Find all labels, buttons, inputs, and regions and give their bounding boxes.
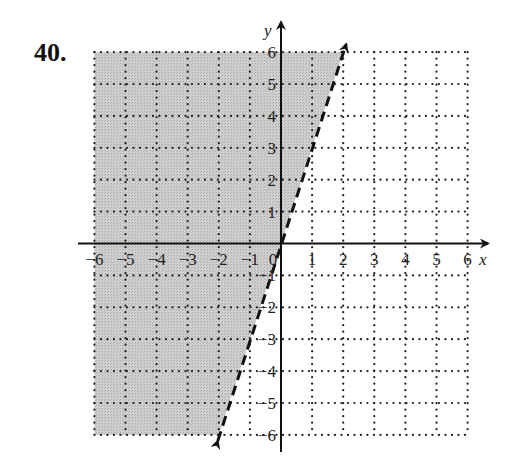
y-tick-label: −6 bbox=[258, 426, 276, 445]
y-tick-label: 3 bbox=[268, 139, 277, 158]
x-tick-label: −2 bbox=[210, 250, 228, 269]
y-tick-label: −5 bbox=[258, 394, 276, 413]
x-tick-label: −3 bbox=[179, 250, 197, 269]
x-tick-label: −1 bbox=[241, 250, 259, 269]
y-tick-label: 1 bbox=[268, 203, 277, 222]
y-tick-label: 6 bbox=[268, 43, 277, 62]
y-tick-label: −2 bbox=[258, 298, 276, 317]
y-tick-label: −4 bbox=[258, 362, 277, 381]
x-tick-label: 4 bbox=[401, 250, 410, 269]
x-tick-label: 5 bbox=[432, 250, 441, 269]
y-tick-label: 2 bbox=[268, 171, 277, 190]
y-tick-label: 5 bbox=[268, 75, 277, 94]
x-tick-label: 6 bbox=[463, 250, 472, 269]
x-axis-label: x bbox=[478, 250, 487, 269]
x-tick-label: −4 bbox=[148, 250, 167, 269]
x-tick-label: 3 bbox=[370, 250, 379, 269]
x-tick-label: −6 bbox=[85, 250, 103, 269]
x-tick-label: 2 bbox=[339, 250, 348, 269]
x-tick-label: 1 bbox=[308, 250, 317, 269]
coordinate-plane: −6−5−4−3−2−10123456123456−1−2−3−4−5−6 x … bbox=[0, 0, 513, 463]
y-tick-label: 4 bbox=[268, 107, 277, 126]
y-tick-label: −3 bbox=[258, 330, 276, 349]
x-tick-label: −5 bbox=[116, 250, 134, 269]
y-axis-label: y bbox=[262, 21, 272, 40]
y-tick-label: −1 bbox=[258, 266, 276, 285]
